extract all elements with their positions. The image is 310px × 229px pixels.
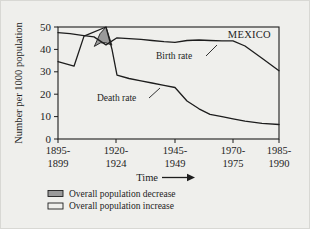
legend-swatch-increase xyxy=(48,203,63,209)
y-axis-ticks xyxy=(54,27,58,139)
x-tick-label-1-line1: 1895- xyxy=(46,145,71,156)
x-tick-label-3-line1: 1945- xyxy=(163,145,188,156)
legend-label-decrease: Overall population decrease xyxy=(69,189,176,199)
x-axis-title: Time xyxy=(136,172,158,183)
x-tick-label-5-line1: 1985- xyxy=(267,145,292,156)
y-tick-label-10: 10 xyxy=(40,110,52,122)
death-rate-label: Death rate xyxy=(97,93,136,103)
legend: Overall population decrease Overall popu… xyxy=(48,189,176,212)
figure-container: 0 10 20 30 40 50 Number per 1000 populat… xyxy=(0,0,310,229)
x-tick-label-2-line1: 1920- xyxy=(104,145,129,156)
y-tick-label-0: 0 xyxy=(46,133,52,145)
population-rates-chart: 0 10 20 30 40 50 Number per 1000 populat… xyxy=(1,1,310,229)
country-label: MEXICO xyxy=(228,29,271,40)
x-tick-label-2-line2: 1924 xyxy=(106,158,128,169)
legend-swatch-decrease xyxy=(48,191,63,197)
y-tick-label-20: 20 xyxy=(40,88,52,100)
time-arrow-icon xyxy=(162,174,195,181)
plot-frame xyxy=(58,27,279,139)
legend-label-increase: Overall population increase xyxy=(69,201,174,211)
x-tick-label-3-line2: 1949 xyxy=(165,158,186,169)
y-tick-label-50: 50 xyxy=(40,21,52,33)
y-axis-title: Number per 1000 population xyxy=(13,21,24,143)
death-rate-leader-line xyxy=(149,88,160,98)
y-tick-label-40: 40 xyxy=(40,43,52,55)
x-tick-label-1-line2: 1899 xyxy=(48,158,69,169)
x-tick-label-5-line2: 1990 xyxy=(269,158,290,169)
x-axis-ticks xyxy=(58,139,279,143)
x-tick-label-4-line2: 1975 xyxy=(223,158,244,169)
y-tick-label-30: 30 xyxy=(40,65,52,77)
x-tick-label-4-line1: 1970- xyxy=(221,145,246,156)
birth-rate-leader-line xyxy=(206,45,217,56)
birth-rate-label: Birth rate xyxy=(156,51,192,61)
